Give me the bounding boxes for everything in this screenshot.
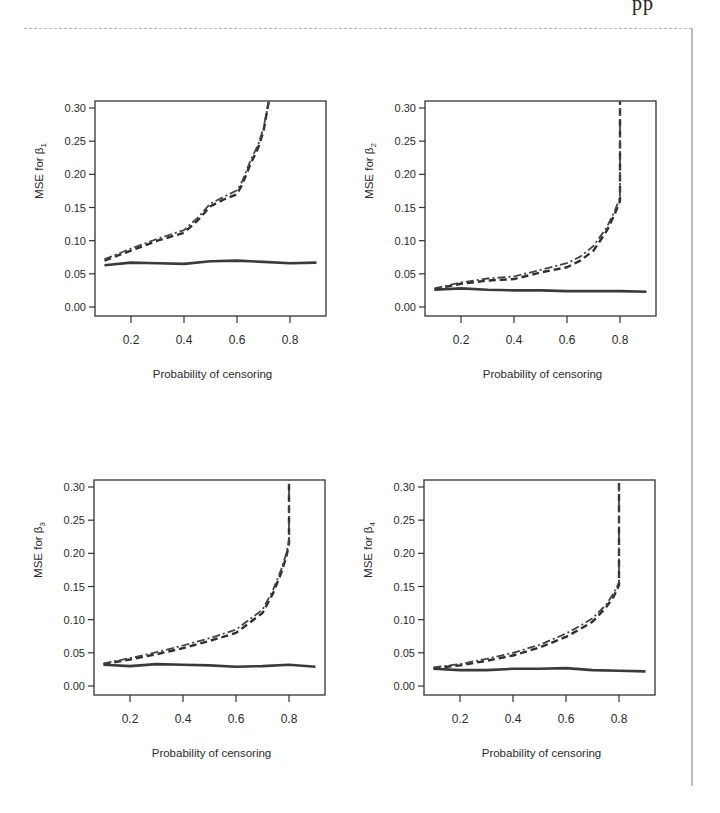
y-tick-label: 0.25 <box>65 135 86 147</box>
y-tick-label: 0.25 <box>64 514 85 526</box>
y-axis-label: MSE for β2 <box>363 143 378 199</box>
panel-beta1: 0.000.050.100.150.200.250.300.20.40.60.8… <box>33 101 326 380</box>
y-tick-label: 0.05 <box>394 647 415 659</box>
y-tick-label: 0.10 <box>394 614 415 626</box>
x-axis-label: Probability of censoring <box>483 368 603 380</box>
x-tick-label: 0.2 <box>452 712 469 726</box>
series-line-dotdash <box>104 480 290 663</box>
y-tick-label: 0.00 <box>64 680 85 692</box>
x-tick-label: 0.4 <box>175 712 192 726</box>
plot-frame <box>424 480 655 695</box>
x-tick-label: 0.6 <box>228 712 245 726</box>
panel-beta3: 0.000.050.100.150.200.250.300.20.40.60.8… <box>32 480 325 759</box>
x-axis-label: Probability of censoring <box>482 747 602 759</box>
series-line-solid <box>104 664 316 667</box>
x-tick-label: 0.8 <box>611 712 628 726</box>
y-tick-label: 0.15 <box>65 202 86 214</box>
y-tick-label: 0.20 <box>395 168 416 180</box>
y-tick-label: 0.25 <box>395 135 416 147</box>
panel-beta2: 0.000.050.100.150.200.250.300.20.40.60.8… <box>363 101 656 380</box>
y-tick-label: 0.15 <box>394 581 415 593</box>
x-axis-label: Probability of censoring <box>152 747 272 759</box>
x-axis-label: Probability of censoring <box>153 368 273 380</box>
y-tick-label: 0.30 <box>394 481 415 493</box>
y-tick-label: 0.00 <box>65 301 86 313</box>
y-tick-label: 0.15 <box>395 202 416 214</box>
x-tick-label: 0.2 <box>123 333 140 347</box>
y-tick-label: 0.20 <box>65 168 86 180</box>
plot-frame <box>94 480 325 695</box>
y-tick-label: 0.10 <box>65 235 86 247</box>
x-tick-label: 0.6 <box>559 333 576 347</box>
plot-frame <box>95 101 326 316</box>
x-tick-label: 0.2 <box>453 333 470 347</box>
series-line-dotdash <box>434 480 620 667</box>
y-tick-label: 0.25 <box>394 514 415 526</box>
y-tick-label: 0.00 <box>394 680 415 692</box>
series-line-solid <box>105 261 317 266</box>
x-tick-label: 0.4 <box>505 712 522 726</box>
x-tick-label: 0.6 <box>229 333 246 347</box>
y-tick-label: 0.20 <box>64 547 85 559</box>
panel-beta4: 0.000.050.100.150.200.250.300.20.40.60.8… <box>362 480 655 759</box>
y-axis-label: MSE for β1 <box>33 143 48 199</box>
series-line-dashed <box>104 480 290 664</box>
y-tick-label: 0.30 <box>64 481 85 493</box>
y-axis-label: MSE for β4 <box>362 522 377 578</box>
y-tick-label: 0.15 <box>64 581 85 593</box>
y-tick-label: 0.30 <box>395 102 416 114</box>
x-tick-label: 0.6 <box>558 712 575 726</box>
y-tick-label: 0.00 <box>395 301 416 313</box>
x-tick-label: 0.4 <box>506 333 523 347</box>
figure-mse-panels: 0.000.050.100.150.200.250.300.20.40.60.8… <box>0 0 720 813</box>
x-tick-label: 0.8 <box>281 712 298 726</box>
series-line-dashed <box>435 101 621 289</box>
y-tick-label: 0.05 <box>65 268 86 280</box>
y-axis-label: MSE for β3 <box>32 522 47 578</box>
series-line-dashed <box>434 480 620 668</box>
x-tick-label: 0.8 <box>612 333 629 347</box>
series-line-solid <box>435 288 647 291</box>
y-tick-label: 0.10 <box>64 614 85 626</box>
series-line-solid <box>434 668 646 671</box>
y-tick-label: 0.10 <box>395 235 416 247</box>
y-tick-label: 0.05 <box>395 268 416 280</box>
x-tick-label: 0.4 <box>176 333 193 347</box>
y-tick-label: 0.20 <box>394 547 415 559</box>
y-tick-label: 0.05 <box>64 647 85 659</box>
series-line-dashed <box>105 101 269 260</box>
x-tick-label: 0.2 <box>122 712 139 726</box>
x-tick-label: 0.8 <box>282 333 299 347</box>
y-tick-label: 0.30 <box>65 102 86 114</box>
series-line-dotdash <box>435 101 621 288</box>
